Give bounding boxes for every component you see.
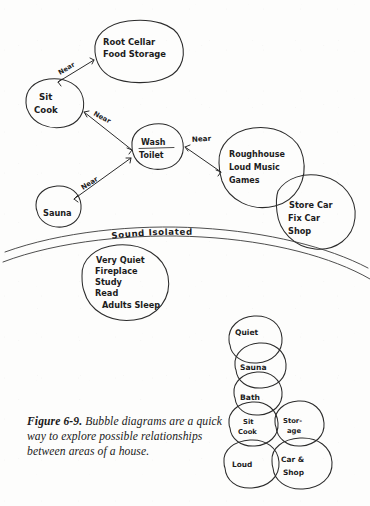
relation-wash-toilet-roughhouse: Near [185,134,221,176]
bubble-root-cellar-line1: Root Cellar [103,37,156,47]
stack-bubble-car-shop-line1: Car & [281,455,305,464]
bubble-wash-toilet-line2: Toilet [139,151,164,160]
relation-sit-cook-wash-toilet: Near [84,110,132,154]
stack-bubble-quiet-label: Quiet [235,328,259,337]
bubble-sit-cook-line1: Sit [39,92,52,102]
bubble-very-quiet-line4: Read [95,288,118,298]
bubble-roughhouse-line3: Games [229,176,260,185]
bubble-wash-toilet-line1: Wash [141,138,166,147]
bubble-roughhouse: Roughhouse Loud Music Games [219,128,304,208]
bubble-sit-cook: Sit Cook [26,79,84,128]
bubble-very-quiet-line3: Study [95,277,123,287]
bubble-very-quiet-line5: Adults Sleep [102,300,160,310]
stack-bubble-storage-line2: age [287,427,301,435]
stack-bubble-bath-label: Bath [240,393,260,402]
stack-bubble-sauna-label: Sauna [240,363,267,372]
bubble-store-car: Store Car Fix Car Shop [276,175,355,249]
bubble-very-quiet-line2: Fireplace [95,266,138,276]
relation-label-near-3: Near [192,134,212,144]
bubble-root-cellar-line2: Food Storage [103,49,166,59]
relation-sit-cook-root-cellar: Near [57,58,94,86]
figure-caption: Figure 6-9. Bubble diagrams are a quick … [27,414,239,460]
bubble-wash-toilet: Wash Toilet [132,124,183,170]
bubble-store-car-line2: Fix Car [288,213,321,223]
relation-label-near-1: Near [57,60,77,76]
figure-container: Root Cellar Food Storage Sit Cook Wash T… [0,0,370,506]
bubble-store-car-line1: Store Car [289,200,333,210]
bubble-sauna-line1: Sauna [43,208,72,218]
bubble-root-cellar: Root Cellar Food Storage [95,20,184,82]
bubble-roughhouse-line1: Roughhouse [229,150,285,159]
bubble-very-quiet: Very Quiet Fireplace Study Read Adults S… [82,245,169,321]
bubble-roughhouse-line2: Loud Music [229,163,280,172]
bubble-sauna: Sauna [36,186,81,227]
bubble-store-car-line3: Shop [288,226,311,236]
figure-number: Figure 6-9. [27,415,82,428]
sound-isolated-zone: Sound Isolated [3,227,370,279]
relation-label-near-4: Near [80,175,100,192]
relation-label-near-2: Near [92,110,112,126]
stack-bubble-bath: Bath [234,372,282,415]
stack-bubble-sit-cook-line1: Sit [243,418,254,426]
stack-bubble-storage-line1: Stor- [283,417,302,425]
relation-sauna-wash-toilet: Near [74,158,131,202]
stack-bubble-loud-label: Loud [232,460,252,469]
stack-bubble-car-shop-line2: Shop [283,468,304,477]
stack-bubble-sit-cook-line2: Cook [238,428,257,436]
bubble-sit-cook-line2: Cook [34,105,58,115]
bubble-very-quiet-line1: Very Quiet [96,255,145,265]
stack-bubble-storage: Stor- age [275,401,324,446]
